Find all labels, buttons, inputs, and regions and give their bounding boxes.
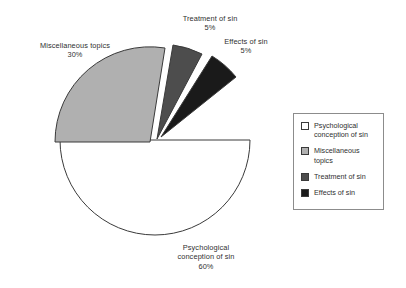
legend-label-miscellaneous: Miscellaneous topics bbox=[314, 146, 360, 164]
pie-chart-figure: Miscellaneous topics 30% Treatment of si… bbox=[0, 0, 406, 288]
callout-effects-of-sin: Effects of sin 5% bbox=[196, 37, 296, 56]
legend-item-treatment-of-sin[interactable]: Treatment of sin bbox=[301, 172, 377, 181]
pie-slice-psychological-conception-of-sin[interactable] bbox=[60, 140, 250, 235]
chart-legend: Psychological conception of sin Miscella… bbox=[293, 113, 384, 210]
legend-label-psychological-line1: Psychological bbox=[314, 121, 358, 130]
callout-miscellaneous-topics: Miscellaneous topics 30% bbox=[8, 41, 142, 60]
legend-label-treatment: Treatment of sin bbox=[314, 172, 366, 181]
legend-item-effects-of-sin[interactable]: Effects of sin bbox=[301, 188, 377, 197]
legend-swatch-psychological-icon bbox=[301, 122, 309, 130]
callout-misc-name: Miscellaneous topics bbox=[40, 41, 110, 50]
callout-effects-percent: 5% bbox=[196, 46, 296, 55]
callout-psych-line1: Psychological bbox=[183, 243, 230, 252]
callout-psych-line2: conception of sin bbox=[140, 252, 272, 261]
callout-psych-percent: 60% bbox=[140, 262, 272, 271]
callout-treatment-percent: 5% bbox=[155, 23, 265, 32]
legend-label-miscellaneous-line2: topics bbox=[314, 156, 333, 165]
legend-swatch-treatment-icon bbox=[301, 173, 309, 181]
callout-treatment-name: Treatment of sin bbox=[183, 14, 238, 23]
legend-swatch-effects-icon bbox=[301, 189, 309, 197]
legend-label-effects: Effects of sin bbox=[314, 188, 355, 197]
callout-treatment-of-sin: Treatment of sin 5% bbox=[155, 14, 265, 33]
legend-label-miscellaneous-line1: Miscellaneous bbox=[314, 146, 360, 155]
legend-label-psychological: Psychological conception of sin bbox=[314, 121, 368, 139]
callout-effects-name: Effects of sin bbox=[224, 37, 268, 46]
pie-slice-miscellaneous-topics[interactable] bbox=[55, 47, 165, 142]
legend-item-miscellaneous-topics[interactable]: Miscellaneous topics bbox=[301, 146, 377, 164]
callout-psychological-conception-of-sin: Psychological conception of sin 60% bbox=[140, 243, 272, 271]
callout-misc-percent: 30% bbox=[8, 50, 142, 59]
legend-swatch-miscellaneous-icon bbox=[301, 147, 309, 155]
legend-item-psychological-conception-of-sin[interactable]: Psychological conception of sin bbox=[301, 121, 377, 139]
legend-label-psychological-line2: conception of sin bbox=[314, 130, 368, 139]
